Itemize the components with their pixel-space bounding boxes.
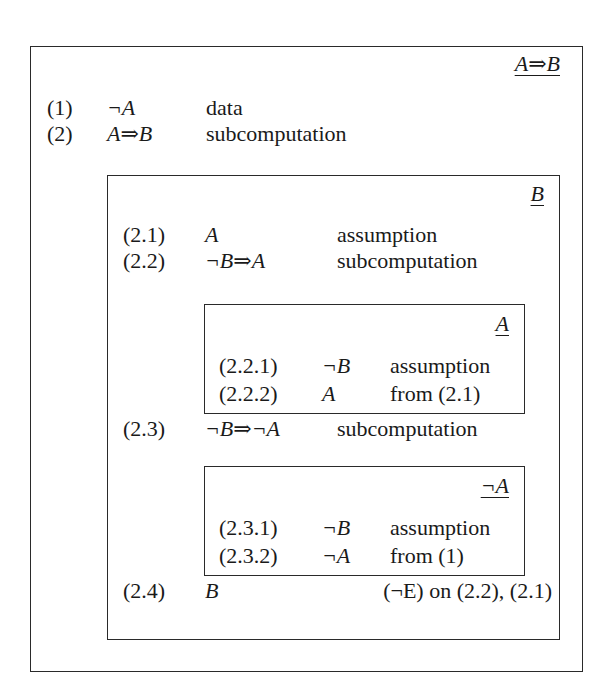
justification: assumption xyxy=(390,516,490,540)
formula: ¬A xyxy=(107,96,135,120)
line-number: (2.2.1) xyxy=(219,354,278,378)
line-number: (2.1) xyxy=(123,223,165,247)
justification: from (2.1) xyxy=(390,382,480,406)
line-number: (2) xyxy=(47,122,73,146)
line-number: (2.2) xyxy=(123,249,165,273)
inner1-goal: A xyxy=(440,312,509,336)
line-number: (2.3.2) xyxy=(219,544,278,568)
line-number: (2.4) xyxy=(123,579,165,603)
formula: ¬B⇒A xyxy=(205,249,265,273)
formula: B xyxy=(205,579,218,603)
formula: ¬B⇒¬A xyxy=(205,417,280,441)
formula: ¬A xyxy=(322,544,350,568)
formula: A xyxy=(205,223,218,247)
line-number: (2.3) xyxy=(123,417,165,441)
middle-goal: B xyxy=(440,182,544,206)
line-number: (2.2.2) xyxy=(219,382,278,406)
justification: from (1) xyxy=(390,544,464,568)
justification: subcomputation xyxy=(337,249,478,273)
justification: subcomputation xyxy=(206,122,347,146)
formula: ¬B xyxy=(322,354,350,378)
justification: assumption xyxy=(337,223,437,247)
line-number: (2.3.1) xyxy=(219,516,278,540)
outer-goal: A⇒B xyxy=(430,52,560,76)
line-number: (1) xyxy=(47,96,73,120)
formula: ¬B xyxy=(322,516,350,540)
justification: subcomputation xyxy=(337,417,478,441)
formula: A xyxy=(322,382,335,406)
inner2-goal: ¬A xyxy=(440,474,509,498)
justification: assumption xyxy=(390,354,490,378)
justification: (¬E) on (2.2), (2.1) xyxy=(330,579,552,603)
justification: data xyxy=(206,96,243,120)
formula: A⇒B xyxy=(107,122,152,146)
